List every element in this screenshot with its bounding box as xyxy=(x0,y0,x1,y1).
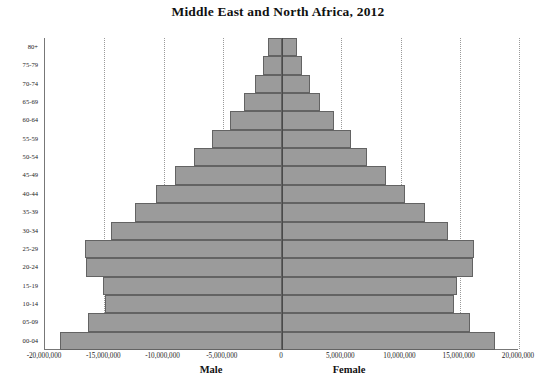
population-pyramid-chart: Middle East and North Africa, 2012 80+75… xyxy=(0,0,556,379)
female-bar xyxy=(282,240,474,258)
x-axis-tick-label: 0 xyxy=(279,352,283,360)
y-axis-tick-label: 20-24 xyxy=(23,258,38,276)
female-bar xyxy=(282,313,470,331)
male-bar xyxy=(88,313,282,331)
y-axis-tick-label: 60-64 xyxy=(23,111,38,129)
female-bar xyxy=(282,258,473,276)
x-axis-tick-label: -10,000,000 xyxy=(145,352,180,360)
female-bar xyxy=(282,75,310,93)
y-axis-tick-label: 30-34 xyxy=(23,222,38,240)
y-axis-tick-label: 40-44 xyxy=(23,185,38,203)
male-bar xyxy=(268,38,282,56)
y-axis-tick-label: 65-69 xyxy=(23,93,38,111)
female-axis-label: Female xyxy=(333,364,366,375)
y-axis-tick-label: 05-09 xyxy=(23,313,38,331)
y-axis-labels: 80+75-7970-7465-6960-6455-5950-5445-4940… xyxy=(0,38,42,350)
y-axis-tick-label: 70-74 xyxy=(23,75,38,93)
x-axis-tick-label: -5,000,000 xyxy=(206,352,237,360)
y-axis-tick-label: 80+ xyxy=(28,38,38,56)
y-axis-tick-label: 50-54 xyxy=(23,148,38,166)
male-bar xyxy=(86,258,282,276)
female-bar xyxy=(282,148,367,166)
male-bar xyxy=(194,148,282,166)
x-axis-labels: -20,000,000-15,000,000-10,000,000-5,000,… xyxy=(0,352,556,366)
y-axis-tick-label: 00-04 xyxy=(23,332,38,350)
y-axis-tick-label: 25-29 xyxy=(23,240,38,258)
female-bar xyxy=(282,222,448,240)
female-bar xyxy=(282,332,495,350)
male-bar xyxy=(263,56,282,74)
y-axis-tick-label: 55-59 xyxy=(23,130,38,148)
x-axis-tick-label: -20,000,000 xyxy=(27,352,62,360)
female-bar xyxy=(282,203,425,221)
female-bar xyxy=(282,111,334,129)
y-axis-tick-label: 75-79 xyxy=(23,56,38,74)
male-bar xyxy=(103,277,282,295)
female-bar xyxy=(282,38,297,56)
y-axis-tick-label: 45-49 xyxy=(23,166,38,184)
male-bar xyxy=(230,111,282,129)
x-axis-tick-label: -15,000,000 xyxy=(86,352,121,360)
female-bar xyxy=(282,295,454,313)
female-bar xyxy=(282,185,405,203)
plot-area xyxy=(44,38,518,350)
female-bar xyxy=(282,56,302,74)
y-axis-tick-label: 10-14 xyxy=(23,295,38,313)
center-axis-line xyxy=(282,38,283,350)
x-axis-tick-label: 15,000,000 xyxy=(443,352,475,360)
male-bar xyxy=(212,130,282,148)
female-bar xyxy=(282,93,320,111)
female-bar xyxy=(282,130,351,148)
x-axis-tick-label: 10,000,000 xyxy=(383,352,415,360)
male-bar xyxy=(85,240,282,258)
male-bar xyxy=(175,166,282,184)
male-bar xyxy=(111,222,282,240)
male-axis-label: Male xyxy=(200,364,223,375)
male-bar xyxy=(135,203,282,221)
gridline xyxy=(519,38,520,349)
male-bar xyxy=(255,75,282,93)
x-axis-tick-label: 5,000,000 xyxy=(326,352,355,360)
y-axis-tick-label: 35-39 xyxy=(23,203,38,221)
y-axis-tick-label: 15-19 xyxy=(23,277,38,295)
female-bar xyxy=(282,277,457,295)
chart-title: Middle East and North Africa, 2012 xyxy=(0,4,556,20)
female-bar xyxy=(282,166,386,184)
male-bar xyxy=(156,185,282,203)
male-bar xyxy=(244,93,282,111)
male-bar xyxy=(105,295,282,313)
x-axis-tick-label: 20,000,000 xyxy=(502,352,534,360)
male-bar xyxy=(60,332,282,350)
